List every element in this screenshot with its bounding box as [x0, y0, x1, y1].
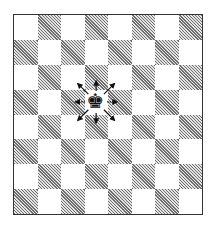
board-square: [132, 164, 156, 189]
board-square: [179, 90, 203, 115]
board-square: [108, 65, 132, 90]
board-square: [85, 189, 109, 214]
board-square: [85, 139, 109, 164]
board-square: [38, 115, 62, 140]
board-square: [108, 40, 132, 65]
board-square: [155, 90, 179, 115]
board-square: [179, 40, 203, 65]
board-square: [179, 15, 203, 40]
board-square: [38, 189, 62, 214]
board-square: [14, 90, 38, 115]
board-square: [108, 90, 132, 115]
board-square: [61, 65, 85, 90]
board-square: [132, 40, 156, 65]
board-square: [61, 90, 85, 115]
board-square: [61, 139, 85, 164]
board-square: [14, 115, 38, 140]
board-square: [155, 139, 179, 164]
black-king-icon: ♚: [86, 91, 104, 111]
board-square: [132, 139, 156, 164]
board-square: [132, 115, 156, 140]
board-square: [38, 15, 62, 40]
board-square: [179, 115, 203, 140]
board-square: [14, 40, 38, 65]
board-square: [61, 164, 85, 189]
board-square: [61, 15, 85, 40]
board-square: [108, 15, 132, 40]
board-square: [108, 115, 132, 140]
board-square: [85, 115, 109, 140]
board-square: [155, 189, 179, 214]
board-square: [38, 65, 62, 90]
board-square: [61, 40, 85, 65]
board-square: [14, 15, 38, 40]
board-square: [38, 139, 62, 164]
board-square: [108, 139, 132, 164]
board-square: [179, 139, 203, 164]
board-square: [38, 164, 62, 189]
board-square: [14, 139, 38, 164]
board-square: [85, 65, 109, 90]
board-square: [179, 189, 203, 214]
board-square: [155, 15, 179, 40]
board-square: [38, 90, 62, 115]
board-square: [14, 164, 38, 189]
board-square: [132, 65, 156, 90]
board-square: [132, 90, 156, 115]
board-square: [61, 189, 85, 214]
board-square: [85, 15, 109, 40]
chess-board: [13, 14, 203, 215]
board-square: [14, 65, 38, 90]
board-square: [108, 189, 132, 214]
board-square: [155, 65, 179, 90]
board-square: [38, 40, 62, 65]
board-square: [85, 40, 109, 65]
board-square: [155, 40, 179, 65]
board-square: [155, 164, 179, 189]
board-square: [14, 189, 38, 214]
board-square: [108, 164, 132, 189]
board-square: [132, 15, 156, 40]
board-square: [179, 65, 203, 90]
board-square: [61, 115, 85, 140]
board-square: [179, 164, 203, 189]
board-square: [155, 115, 179, 140]
board-square: [132, 189, 156, 214]
board-square: [85, 164, 109, 189]
